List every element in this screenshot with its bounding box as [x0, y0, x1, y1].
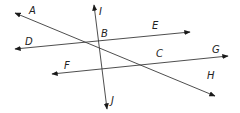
label-a: A: [28, 5, 36, 16]
label-g: G: [212, 44, 220, 55]
label-j: J: [109, 95, 114, 106]
label-b: B: [101, 28, 108, 39]
line-ah: [15, 13, 215, 96]
label-c: C: [156, 48, 163, 59]
line-intersection-diagram: A B C D E F G H I J: [0, 0, 240, 113]
label-d: D: [25, 36, 33, 47]
line-ij: [94, 5, 107, 109]
label-f: F: [64, 60, 70, 71]
line-fg: [52, 56, 228, 74]
label-e: E: [152, 20, 159, 31]
label-h: H: [207, 70, 215, 81]
label-i: I: [99, 6, 102, 17]
